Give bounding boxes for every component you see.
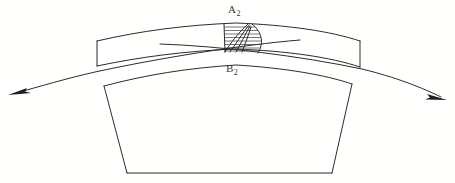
label-a2: A2 (228, 4, 240, 18)
trapezoid-right-side (332, 84, 352, 173)
arrowheads (8, 88, 447, 100)
label-a2-base: A (228, 3, 236, 15)
label-b2-subscript: 2 (233, 68, 238, 77)
left-arrowhead (8, 88, 31, 95)
stress-element-right-bulge (252, 24, 262, 53)
diagram-canvas (0, 0, 455, 183)
figure-root: A2 B2 (0, 0, 455, 183)
label-b2: B2 (226, 63, 238, 77)
trapezoid-left-side (104, 86, 127, 173)
label-a2-subscript: 2 (236, 9, 241, 18)
band-outer-arc (97, 23, 360, 41)
